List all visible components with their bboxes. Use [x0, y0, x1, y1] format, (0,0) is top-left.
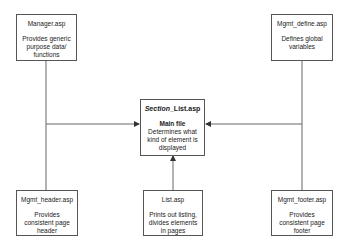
node-title: Mgmt_footer.asp — [272, 196, 332, 204]
node-desc: Defines global variables — [272, 35, 332, 51]
node-title: Mgmt_header.asp — [17, 196, 77, 204]
node-title: Mgmt_define.asp — [272, 20, 332, 28]
node-footer: Mgmt_footer.asp Provides consistent page… — [271, 190, 333, 236]
node-header: Mgmt_header.asp Provides consistent page… — [16, 190, 78, 236]
node-define: Mgmt_define.asp Defines global variables — [271, 14, 333, 61]
node-manager: Manager.asp Provides generic purpose dat… — [16, 14, 77, 61]
node-subtitle: Main file — [141, 120, 204, 128]
node-desc: Prints out listing, divides elements in … — [144, 211, 202, 235]
node-title: Manager.asp — [17, 20, 76, 28]
node-title: Section_List.asp — [141, 105, 204, 113]
node-desc: Determines what kind of element is displ… — [141, 128, 204, 152]
node-list: List.asp Prints out listing, divides ele… — [143, 190, 203, 236]
node-desc: Provides consistent page footer — [272, 211, 332, 235]
node-desc: Provides generic purpose data/ functions — [17, 35, 76, 59]
node-title: List.asp — [144, 196, 202, 204]
node-desc: Provides consistent page header — [17, 211, 77, 235]
title-italic: Section — [145, 105, 170, 112]
node-main: Section_List.asp Main file Determines wh… — [140, 99, 205, 156]
title-rest: _List.asp — [170, 105, 200, 112]
